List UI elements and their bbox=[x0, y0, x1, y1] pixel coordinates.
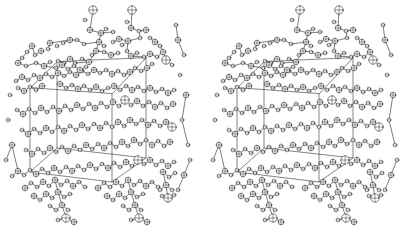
atom-marker bbox=[350, 27, 356, 33]
atom-marker bbox=[318, 83, 324, 89]
atom-marker bbox=[257, 196, 261, 200]
atom-marker bbox=[129, 87, 135, 93]
atom-marker bbox=[282, 38, 286, 42]
atom-marker bbox=[165, 90, 171, 96]
atom-marker bbox=[297, 147, 301, 151]
atom-marker bbox=[172, 160, 176, 164]
atom-marker bbox=[370, 119, 376, 125]
atom-marker bbox=[59, 62, 65, 68]
atom-marker bbox=[359, 104, 365, 110]
atom-marker bbox=[231, 64, 235, 68]
atom-marker bbox=[341, 122, 345, 126]
atom-marker bbox=[20, 56, 24, 60]
atom-marker bbox=[356, 142, 362, 148]
atom-marker bbox=[227, 56, 231, 60]
atom-marker bbox=[302, 185, 308, 191]
atom-marker bbox=[38, 105, 44, 111]
atom-marker bbox=[48, 204, 52, 208]
atom-marker bbox=[56, 108, 62, 114]
atom-marker bbox=[159, 101, 163, 105]
atom-marker bbox=[83, 18, 87, 22]
atom-marker bbox=[335, 53, 341, 59]
atom-marker bbox=[154, 163, 158, 167]
atom-marker bbox=[342, 51, 346, 55]
atom-marker bbox=[181, 172, 187, 178]
atom-marker bbox=[227, 111, 233, 117]
atom-marker bbox=[20, 111, 26, 117]
stereo-figure bbox=[0, 0, 403, 234]
atom-marker bbox=[349, 55, 353, 59]
atom-marker bbox=[128, 25, 134, 31]
atom-marker bbox=[82, 42, 86, 46]
atom-marker bbox=[231, 148, 235, 152]
atom-marker bbox=[344, 29, 348, 33]
atom-marker bbox=[95, 185, 101, 191]
atom-marker bbox=[382, 37, 388, 43]
atom-marker bbox=[14, 79, 18, 83]
atom-marker bbox=[299, 122, 303, 126]
atom-marker bbox=[101, 145, 107, 151]
atom-marker bbox=[152, 39, 158, 45]
atom-marker bbox=[261, 150, 265, 154]
atom-marker bbox=[263, 59, 267, 63]
atom-marker bbox=[336, 103, 340, 107]
atom-marker bbox=[144, 65, 150, 71]
atom-marker bbox=[62, 214, 70, 222]
atom-marker bbox=[323, 191, 329, 197]
atom-marker bbox=[236, 43, 242, 49]
atom-marker bbox=[46, 47, 50, 51]
atom-marker bbox=[112, 161, 116, 165]
atom-marker bbox=[223, 86, 227, 90]
atom-marker bbox=[135, 51, 139, 55]
atom-marker bbox=[55, 189, 61, 195]
atom-marker bbox=[349, 89, 353, 93]
atom-marker bbox=[331, 84, 335, 88]
atom-marker bbox=[332, 38, 338, 44]
atom-marker bbox=[122, 73, 126, 77]
atom-marker bbox=[80, 57, 84, 61]
atom-marker bbox=[143, 183, 149, 189]
atom-marker bbox=[75, 86, 81, 92]
atom-marker bbox=[36, 147, 40, 151]
atom-marker bbox=[116, 36, 122, 42]
atom-marker bbox=[66, 67, 70, 71]
atom-marker bbox=[43, 125, 49, 131]
atom-marker bbox=[82, 84, 86, 88]
atom-marker bbox=[76, 164, 80, 168]
atom-marker bbox=[37, 75, 43, 81]
atom-marker bbox=[137, 29, 141, 33]
atom-marker bbox=[309, 50, 313, 54]
atom-marker bbox=[27, 107, 31, 111]
atom-marker bbox=[348, 104, 352, 108]
atom-marker bbox=[264, 81, 270, 87]
atom-marker bbox=[134, 156, 142, 164]
atom-marker bbox=[50, 130, 54, 134]
atom-marker bbox=[152, 104, 158, 110]
atom-marker bbox=[67, 37, 73, 43]
atom-marker bbox=[247, 179, 253, 185]
atom-marker bbox=[104, 68, 108, 72]
structure-plot-right bbox=[203, 0, 403, 234]
atom-marker bbox=[75, 38, 79, 42]
atom-marker bbox=[350, 183, 356, 189]
atom-marker bbox=[325, 165, 329, 169]
atom-marker bbox=[294, 162, 300, 168]
atom-marker bbox=[390, 92, 396, 98]
atom-marker bbox=[104, 193, 110, 199]
atom-marker bbox=[116, 69, 120, 73]
atom-marker bbox=[354, 157, 360, 163]
atom-marker bbox=[62, 195, 66, 199]
atom-marker bbox=[34, 88, 38, 92]
atom-marker bbox=[6, 118, 10, 122]
atom-marker bbox=[234, 107, 238, 111]
atom-marker bbox=[323, 36, 329, 42]
atom-marker bbox=[371, 194, 379, 202]
atom-marker bbox=[78, 148, 82, 152]
atom-marker bbox=[253, 171, 257, 175]
atom-marker bbox=[291, 65, 295, 69]
atom-marker bbox=[141, 104, 145, 108]
atom-marker bbox=[116, 51, 120, 55]
atom-marker bbox=[90, 147, 94, 151]
atom-marker bbox=[369, 144, 373, 148]
atom-marker bbox=[67, 56, 73, 62]
